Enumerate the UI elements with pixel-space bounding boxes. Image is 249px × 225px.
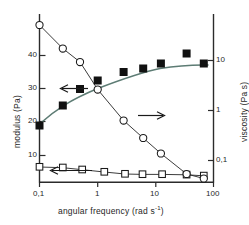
data-point-filled-square: [94, 77, 102, 85]
data-point-open-square: [79, 166, 86, 173]
left-axis-ticks: [40, 56, 46, 156]
x-tick-label-100: 100: [206, 189, 220, 198]
data-point-open-square: [139, 171, 146, 178]
left-tick-label-20: 20: [21, 116, 37, 125]
data-point-open-circle: [183, 170, 190, 177]
axis-lines: [39, 14, 214, 183]
x-tick-label-0p1: 0,1: [33, 189, 44, 198]
data-point-open-circle: [36, 21, 43, 28]
data-point-open-circle: [140, 134, 147, 141]
data-point-filled-square: [139, 65, 147, 73]
data-point-filled-square: [120, 68, 128, 76]
left-tick-label-40: 40: [21, 50, 37, 59]
rheology-chart: 40 30 20 10 10 1 0,1 0,1 1 10 100 modulu…: [0, 0, 249, 225]
right-tick-label-10: 10: [216, 55, 225, 64]
data-point-open-square: [101, 169, 108, 176]
data-point-open-circle: [94, 86, 101, 93]
data-point-open-circle: [157, 150, 164, 157]
x-tick-label-1: 1: [95, 189, 100, 198]
left-tick-label-30: 30: [21, 83, 37, 92]
right-arrow-icon: [138, 112, 165, 119]
x-axis-title: angular frequency (rad s-1): [58, 205, 164, 216]
left-axis-title: modulus (Pa): [12, 95, 22, 148]
right-axis-ticks: [208, 61, 214, 161]
data-point-filled-square: [157, 60, 165, 68]
data-point-open-square: [36, 164, 43, 171]
data-point-open-circle: [120, 117, 127, 124]
data-point-open-square: [159, 171, 166, 178]
annotation-arrows: [51, 85, 165, 174]
data-point-open-circle: [200, 175, 207, 182]
x-axis-title-tail: ): [161, 206, 164, 216]
loss-modulus-markers: [36, 164, 207, 179]
left-tick-label-10: 10: [21, 150, 37, 159]
data-point-filled-square: [183, 50, 191, 58]
data-point-filled-square: [200, 60, 208, 68]
x-axis-title-main: angular frequency (rad s: [58, 206, 155, 216]
data-point-open-circle: [76, 58, 83, 65]
x-tick-label-10: 10: [150, 189, 159, 198]
storage-modulus-connector: [40, 54, 204, 126]
right-tick-label-0p1: 0,1: [216, 155, 227, 164]
data-point-filled-square: [59, 102, 67, 110]
right-axis-title: viscosity (Pa s): [239, 82, 249, 142]
data-point-open-square: [122, 171, 129, 178]
data-point-open-circle: [59, 45, 66, 52]
right-tick-label-1: 1: [216, 105, 221, 114]
data-point-open-square: [60, 164, 67, 171]
